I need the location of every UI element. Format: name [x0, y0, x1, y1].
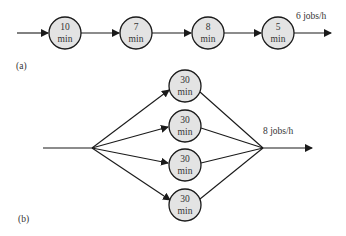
station-b-1: 30 min [169, 70, 201, 102]
station-a-3: 8 min [192, 17, 224, 49]
station-time: 30 [180, 154, 190, 164]
station-time: 8 [206, 22, 211, 32]
part-label-a: (a) [16, 61, 27, 72]
station-time: 7 [134, 22, 139, 32]
station-unit: min [178, 166, 193, 176]
station-unit: min [178, 87, 193, 97]
station-unit: min [201, 34, 216, 44]
station-unit: min [178, 127, 193, 137]
station-unit: min [129, 34, 144, 44]
throughput-label-a: 6 jobs/h [296, 11, 327, 21]
station-time: 10 [60, 22, 70, 32]
parallel-line: 30 min 30 min 30 min 30 min 8 jobs/h (b) [18, 70, 312, 225]
station-time: 5 [276, 22, 281, 32]
station-a-2: 7 min [120, 17, 152, 49]
station-unit: min [271, 34, 286, 44]
station-b-4: 30 min [169, 189, 201, 221]
station-time: 30 [180, 194, 190, 204]
station-time: 30 [180, 115, 190, 125]
station-a-4: 5 min [262, 17, 294, 49]
station-a-1: 10 min [49, 17, 81, 49]
branch-arrow-1 [92, 90, 169, 148]
merge-line-2 [201, 128, 263, 148]
throughput-label-b: 8 jobs/h [263, 126, 294, 136]
station-time: 30 [180, 75, 190, 85]
branch-arrow-2 [92, 127, 168, 148]
station-b-3: 30 min [169, 149, 201, 181]
merge-line-1 [200, 92, 263, 148]
production-line-diagram: 10 min 7 min 8 min 5 min 6 jobs/h (a) [0, 0, 346, 236]
station-unit: min [178, 206, 193, 216]
station-b-2: 30 min [169, 110, 201, 142]
part-label-b: (b) [18, 214, 29, 225]
serial-line: 10 min 7 min 8 min 5 min 6 jobs/h (a) [16, 11, 331, 72]
station-unit: min [58, 34, 73, 44]
